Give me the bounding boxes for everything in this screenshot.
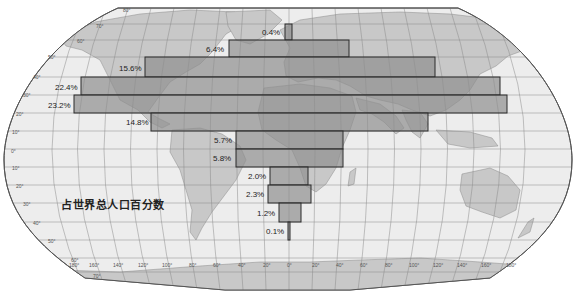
bar-1-2 bbox=[279, 203, 301, 222]
lon-label-180e: 180° bbox=[506, 262, 516, 268]
lon-label-160e: 160° bbox=[481, 262, 491, 268]
lat-label-70s: 70° bbox=[93, 273, 101, 279]
lon-label-60w: 60° bbox=[213, 262, 221, 268]
lon-label-100e: 100° bbox=[409, 262, 419, 268]
map-title: 占世界总人口百分数 bbox=[61, 196, 165, 212]
lat-label-0: 0° bbox=[11, 148, 16, 154]
bar-0-1 bbox=[288, 222, 290, 240]
bar-label-14-8: 14.8% bbox=[126, 119, 149, 127]
bar-label-2-3: 2.3% bbox=[246, 191, 264, 199]
bar-label-5-8: 5.8% bbox=[213, 155, 231, 163]
lon-label-40e: 40° bbox=[336, 262, 344, 268]
bar-label-0-1: 0.1% bbox=[266, 228, 284, 236]
lat-label-60n: 60° bbox=[77, 38, 85, 44]
lon-label-20e: 20° bbox=[312, 262, 320, 268]
bar-5-7 bbox=[236, 131, 343, 149]
bar-label-0-4: 0.4% bbox=[262, 29, 280, 37]
lon-label-140w: 140° bbox=[113, 262, 123, 268]
bar-label-2-0: 2.0% bbox=[248, 173, 266, 181]
lon-label-100w: 100° bbox=[162, 262, 172, 268]
lat-label-40s: 40° bbox=[33, 220, 41, 226]
lat-label-10n: 10° bbox=[12, 129, 20, 135]
bar-0-4 bbox=[285, 24, 292, 40]
lat-label-30n: 30° bbox=[23, 92, 31, 98]
bar-label-23-2: 23.2% bbox=[48, 102, 71, 110]
lon-label-120w: 120° bbox=[138, 262, 148, 268]
lon-label-0: 0° bbox=[287, 262, 292, 268]
lon-label-120e: 120° bbox=[433, 262, 443, 268]
bar-22-4 bbox=[81, 77, 500, 95]
bar-5-8 bbox=[236, 149, 343, 167]
lat-label-50n: 50° bbox=[48, 54, 56, 60]
lat-label-50s: 50° bbox=[48, 238, 56, 244]
bar-2-3 bbox=[268, 185, 311, 203]
bar-14-8 bbox=[151, 113, 428, 131]
lon-label-80e: 80° bbox=[385, 262, 393, 268]
lat-label-20n: 20° bbox=[16, 111, 24, 117]
lon-label-140e: 140° bbox=[457, 262, 467, 268]
bar-label-5-7: 5.7% bbox=[214, 137, 232, 145]
lon-label-180w: 180° bbox=[69, 262, 79, 268]
bar-15-6 bbox=[145, 57, 435, 77]
bar-23-2 bbox=[74, 95, 507, 113]
lat-label-40n: 40° bbox=[33, 74, 41, 80]
world-map bbox=[0, 0, 576, 298]
lat-label-10s: 10° bbox=[12, 165, 20, 171]
bar-6-4 bbox=[229, 40, 349, 57]
lat-label-20s: 20° bbox=[16, 183, 24, 189]
lat-label-70n: 70° bbox=[96, 23, 104, 29]
bar-label-22-4: 22.4% bbox=[55, 84, 78, 92]
lon-label-40w: 40° bbox=[238, 262, 246, 268]
lon-label-160w: 160° bbox=[89, 262, 99, 268]
lat-label-30s: 30° bbox=[23, 201, 31, 207]
lon-label-20w: 20° bbox=[263, 262, 271, 268]
lat-label-80n: 80° bbox=[123, 7, 131, 13]
bar-label-15-6: 15.6% bbox=[119, 65, 142, 73]
lon-label-60e: 60° bbox=[360, 262, 368, 268]
bar-label-6-4: 6.4% bbox=[206, 46, 224, 54]
lon-label-80w: 80° bbox=[189, 262, 197, 268]
bar-2-0 bbox=[270, 167, 308, 185]
bar-label-1-2: 1.2% bbox=[257, 210, 275, 218]
